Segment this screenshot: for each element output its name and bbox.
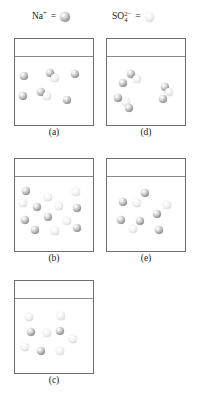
beaker-caption-d: (d): [106, 128, 186, 138]
beaker-d: [106, 38, 186, 126]
beaker-b: [14, 158, 94, 252]
beaker-e: [106, 158, 186, 252]
particle-na: [117, 216, 125, 224]
particle-na: [71, 70, 79, 78]
particulate-diagram-figure: Na+ = SO2−4 = (a)(d)(b)(e)(c): [0, 0, 198, 414]
particle-so4: [69, 335, 76, 342]
legend-sphere-so4: [145, 12, 155, 22]
beaker-caption-c: (c): [14, 376, 94, 386]
particle-na: [114, 94, 122, 102]
particle-so4: [57, 312, 64, 319]
particle-na: [141, 189, 149, 197]
particle-so4: [51, 227, 58, 234]
particle-so4: [21, 343, 28, 350]
particle-na: [37, 347, 45, 355]
particle-na: [31, 226, 39, 234]
beaker-a: [14, 38, 94, 126]
particle-na: [119, 79, 127, 87]
particle-so4: [44, 193, 51, 200]
liquid-level-line-a: [15, 56, 93, 57]
particle-na: [159, 95, 167, 103]
particle-na: [27, 328, 35, 336]
particle-so4: [72, 188, 79, 195]
particle-na: [136, 217, 144, 225]
particle-na: [153, 210, 161, 218]
particle-na: [19, 92, 27, 100]
particle-na: [21, 216, 29, 224]
particle-so4: [133, 75, 140, 82]
particle-so4: [129, 225, 136, 232]
particle-na: [22, 187, 30, 195]
particle-so4: [25, 313, 32, 320]
liquid-level-line-d: [107, 56, 185, 57]
liquid-level-line-c: [15, 298, 93, 299]
particle-so4: [63, 217, 70, 224]
particle-so4: [43, 92, 50, 99]
legend-label-na: Na+: [32, 12, 47, 22]
particle-so4: [133, 199, 140, 206]
particle-so4: [51, 74, 58, 81]
particle-na: [63, 96, 71, 104]
legend-item-na: Na+ =: [32, 12, 70, 22]
beaker-caption-b: (b): [14, 254, 94, 264]
particle-so4: [19, 199, 26, 206]
particle-so4: [55, 202, 62, 209]
legend-item-so4: SO2−4 =: [112, 12, 154, 22]
particle-na: [155, 226, 163, 234]
legend-equals-so4: =: [135, 12, 140, 22]
legend: Na+ = SO2−4 =: [0, 0, 198, 34]
particle-so4: [43, 329, 50, 336]
legend-sphere-na: [60, 12, 70, 22]
particle-na: [125, 104, 133, 112]
liquid-level-line-e: [107, 176, 185, 177]
particle-na: [44, 213, 52, 221]
beaker-caption-e: (e): [106, 254, 186, 264]
particle-na: [33, 203, 41, 211]
particle-na: [73, 224, 81, 232]
legend-label-so4: SO2−4: [112, 12, 131, 22]
legend-charge-stack-so4: 2−4: [124, 12, 131, 22]
beaker-c: [14, 280, 94, 374]
liquid-level-line-b: [15, 176, 93, 177]
beaker-caption-a: (a): [14, 128, 94, 138]
particle-na: [119, 198, 127, 206]
particle-na: [73, 204, 81, 212]
particle-so4: [163, 201, 170, 208]
particle-na: [56, 327, 64, 335]
legend-equals-na: =: [51, 12, 56, 22]
particle-so4: [165, 88, 172, 95]
particle-so4: [56, 347, 63, 354]
particle-na: [20, 72, 28, 80]
